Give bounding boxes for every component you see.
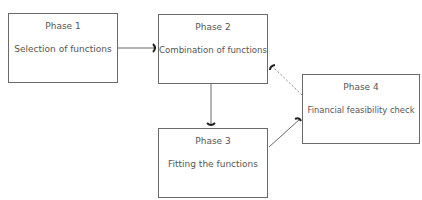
phase4-label: Financial feasibility check (303, 105, 419, 115)
edge-phase4-phase2 (272, 66, 302, 95)
arrowhead-icon (270, 65, 275, 70)
phase4-box: Phase 4 Financial feasibility check (302, 74, 420, 144)
phase2-box: Phase 2 Combination of functions (158, 14, 268, 84)
phase1-label: Selection of functions (9, 44, 117, 54)
phase4-title: Phase 4 (303, 82, 419, 92)
phase1-title: Phase 1 (9, 21, 117, 31)
phase3-title: Phase 3 (159, 136, 267, 146)
phase2-label: Combination of functions (159, 45, 267, 55)
phase3-label: Fitting the functions (159, 159, 267, 169)
phase3-box: Phase 3 Fitting the functions (158, 128, 268, 198)
phase1-box: Phase 1 Selection of functions (8, 13, 118, 83)
phase2-title: Phase 2 (159, 22, 267, 32)
edge-phase3-phase4 (269, 119, 300, 147)
